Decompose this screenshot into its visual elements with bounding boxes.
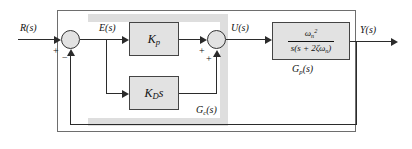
wire-error-main — [80, 39, 127, 40]
plant-block: ωn2 s(s + 2ζωn) — [272, 22, 350, 60]
derivative-gain-block: KDs — [129, 76, 179, 110]
control-junction — [207, 30, 226, 49]
proportional-gain-label: Kp — [148, 32, 160, 47]
arrow-input-r — [54, 36, 61, 44]
wire-feedback-up — [70, 55, 71, 124]
block-diagram-figure: + − + + Kp KDs ωn2 s(s + 2ζωn) R(s) E(s)… — [0, 0, 412, 149]
wire-kd-out — [179, 93, 217, 94]
plant-label: Gp(s) — [292, 63, 313, 75]
error-junction-sign-plus: + — [53, 45, 59, 56]
derivative-gain-label: KDs — [145, 86, 164, 101]
wire-error-branch-down — [106, 39, 107, 93]
control-junction-sign-plus-left: + — [199, 45, 205, 56]
wire-kd-up — [216, 56, 217, 93]
wire-feedback-down — [356, 41, 357, 124]
arrow-into-kd — [122, 90, 129, 98]
controller-label: Gc(s) — [196, 104, 217, 116]
label-error-e: E(s) — [99, 22, 116, 33]
arrow-into-plant — [265, 36, 272, 44]
plant-transfer-function: ωn2 s(s + 2ζωn) — [288, 28, 335, 54]
arrow-output-y — [391, 38, 398, 46]
label-input-r: R(s) — [20, 22, 37, 33]
wire-feedback-bottom — [70, 124, 357, 125]
control-junction-sign-plus-bottom: + — [206, 53, 212, 64]
error-junction-sign-minus: − — [62, 52, 68, 63]
wire-control-u — [226, 39, 270, 40]
wire-input-r — [18, 39, 56, 40]
label-output-y: Y(s) — [360, 24, 376, 35]
proportional-gain-block: Kp — [129, 22, 179, 56]
wire-kp-out — [179, 39, 202, 40]
plant-denominator: s(s + 2ζωn) — [288, 41, 335, 55]
arrow-kd-into-sum2 — [213, 50, 221, 57]
error-junction — [61, 30, 80, 49]
label-control-u: U(s) — [231, 22, 249, 33]
arrow-kp-into-sum2 — [200, 36, 207, 44]
plant-numerator: ωn2 — [288, 28, 335, 41]
arrow-into-kp — [122, 36, 129, 44]
